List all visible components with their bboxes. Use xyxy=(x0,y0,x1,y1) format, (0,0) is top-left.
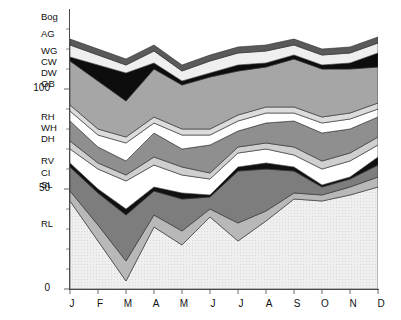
x-axis-label-aug: A xyxy=(261,299,277,309)
y-axis-line xyxy=(69,9,70,290)
x-axis-label-may: M xyxy=(176,299,192,309)
x-axis-label-sep: S xyxy=(289,299,305,309)
x-axis-label-oct: O xyxy=(317,299,333,309)
stacked-area-chart: 100 50 0 Bog AG WG CW DW GB RH WH DH RV … xyxy=(0,0,401,320)
x-axis-label-feb: F xyxy=(92,299,108,309)
x-axis-label-nov: N xyxy=(345,299,361,309)
x-axis-label-dec: D xyxy=(373,299,389,309)
x-axis-label-jul: J xyxy=(233,299,249,309)
plot-area xyxy=(0,0,401,320)
x-axis-label-jun: J xyxy=(205,299,221,309)
x-axis-label-apr: A xyxy=(148,299,164,309)
x-axis-line xyxy=(69,289,379,290)
x-axis-label-mar: M xyxy=(120,299,136,309)
x-axis-label-jan: J xyxy=(64,299,80,309)
